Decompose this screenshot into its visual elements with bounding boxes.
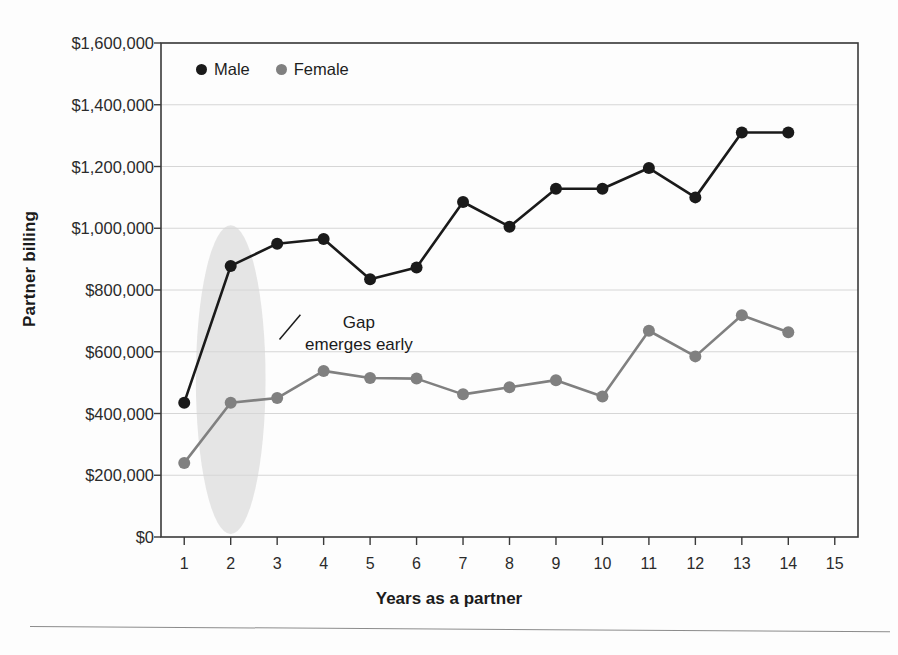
- series-line-female: [184, 315, 788, 463]
- legend-swatch-female: [276, 64, 287, 75]
- legend-label-female: Female: [294, 60, 349, 79]
- data-point-female: [689, 350, 701, 362]
- data-point-male: [643, 162, 655, 174]
- annotation-leader-line: [279, 315, 300, 340]
- chart-legend: Male Female: [196, 60, 349, 79]
- x-axis-title: Years as a partner: [0, 589, 898, 609]
- data-point-female: [504, 381, 516, 393]
- legend-item-male: Male: [196, 60, 250, 79]
- legend-label-male: Male: [214, 60, 250, 79]
- data-point-male: [504, 221, 516, 233]
- data-point-male: [178, 397, 190, 409]
- data-point-male: [364, 273, 376, 285]
- data-point-female: [318, 365, 330, 377]
- chart-page: Partner billing $0$200,000$400,000$600,0…: [0, 0, 898, 655]
- data-point-female: [782, 326, 794, 338]
- data-point-female: [271, 392, 283, 404]
- data-point-male: [736, 127, 748, 139]
- plot-area: [0, 0, 898, 655]
- data-point-female: [736, 309, 748, 321]
- data-point-male: [782, 127, 794, 139]
- data-point-male: [271, 238, 283, 250]
- annotation-gap-emerges-early: Gap emerges early: [305, 312, 413, 356]
- data-point-female: [550, 374, 562, 386]
- data-point-female: [411, 373, 423, 385]
- data-point-female: [643, 325, 655, 337]
- data-point-male: [550, 183, 562, 195]
- data-point-female: [364, 372, 376, 384]
- legend-item-female: Female: [276, 60, 349, 79]
- data-point-male: [689, 191, 701, 203]
- data-point-female: [178, 457, 190, 469]
- data-point-male: [596, 183, 608, 195]
- data-point-male: [318, 233, 330, 245]
- data-point-female: [225, 397, 237, 409]
- data-point-male: [411, 261, 423, 273]
- data-point-female: [457, 388, 469, 400]
- legend-swatch-male: [196, 64, 207, 75]
- data-point-male: [457, 196, 469, 208]
- data-point-female: [596, 391, 608, 403]
- data-point-male: [225, 260, 237, 272]
- series-line-male: [184, 133, 788, 403]
